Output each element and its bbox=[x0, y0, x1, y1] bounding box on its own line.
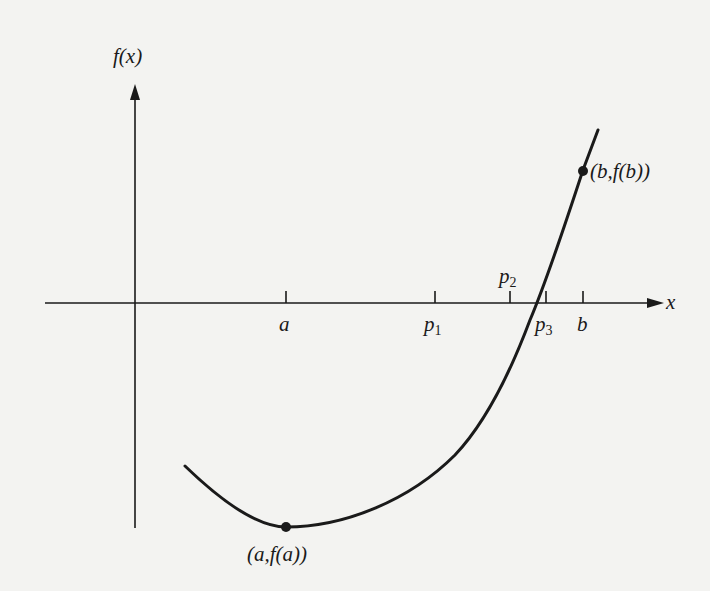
point-label-a-fa: (a,f(a)) bbox=[247, 542, 307, 566]
function-root-diagram: f(x) x a p1 p2 p3 b bbox=[0, 0, 710, 591]
x-axis-label: x bbox=[665, 290, 676, 314]
tick-label-p2: p2 bbox=[497, 264, 517, 290]
diagram-canvas: f(x) x a p1 p2 p3 b bbox=[0, 0, 710, 591]
tick-label-b: b bbox=[577, 312, 588, 336]
y-axis-label: f(x) bbox=[113, 44, 142, 68]
x-axis-arrow-icon bbox=[647, 298, 664, 308]
point-b-fb-marker bbox=[578, 166, 588, 176]
y-axis-arrow-icon bbox=[130, 84, 140, 100]
point-a-fa-marker bbox=[281, 522, 291, 532]
tick-label-a: a bbox=[279, 312, 290, 336]
x-axis bbox=[45, 298, 664, 308]
tick-label-p3: p3 bbox=[533, 312, 553, 338]
tick-label-p1: p1 bbox=[422, 312, 442, 338]
y-axis bbox=[130, 84, 140, 528]
point-label-b-fb: (b,f(b)) bbox=[590, 159, 650, 183]
